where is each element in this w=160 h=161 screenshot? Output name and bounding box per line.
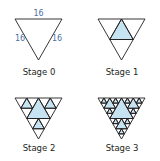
dimension-top-label: 16 (33, 9, 43, 18)
shaded-triangle (44, 98, 56, 108)
stage-2-figure (15, 98, 62, 139)
stage-3-figure (98, 98, 145, 139)
stage-3-label: Stage 3 (106, 143, 139, 153)
stage-1-figure (98, 19, 145, 60)
sierpinski-diagram: 16 16 16 Stage 0 Stage 1 Stage 2 Stage 3 (0, 0, 160, 161)
triangle-outline (110, 40, 134, 61)
shaded-triangle (21, 98, 33, 108)
triangle-outline (33, 129, 45, 139)
shaded-triangle (110, 19, 134, 40)
dimension-right-label: 16 (52, 34, 62, 43)
stage-0-label: Stage 0 (23, 67, 56, 77)
triangle-outline (119, 134, 125, 139)
stage-2-label: Stage 2 (23, 143, 56, 153)
stage-1-label: Stage 1 (106, 67, 139, 77)
shaded-triangle (33, 119, 45, 129)
dimension-left-label: 16 (15, 34, 25, 43)
